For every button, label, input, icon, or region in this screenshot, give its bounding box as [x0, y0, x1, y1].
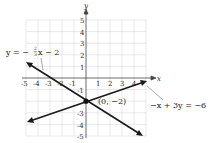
svg-text:-5: -5 [77, 133, 84, 141]
svg-text:-3: -3 [77, 110, 84, 118]
svg-text:−x + 3y = −6: −x + 3y = −6 [150, 101, 206, 110]
svg-text:-1: -1 [69, 80, 76, 88]
svg-text:-4: -4 [33, 80, 40, 88]
leader-line-1 [41, 58, 43, 70]
intersection-point [83, 99, 88, 104]
point-label: (0, −2) [98, 97, 126, 106]
svg-text:x − 2: x − 2 [38, 48, 59, 57]
svg-text:2: 2 [80, 52, 84, 60]
svg-text:2: 2 [108, 80, 112, 88]
svg-text:-5: -5 [21, 80, 28, 88]
x-axis-label: x [157, 75, 161, 83]
y-axis-label: y [83, 2, 89, 10]
svg-text:5: 5 [80, 17, 84, 25]
line-2-arrow-start-icon [27, 117, 34, 123]
svg-text:1: 1 [80, 64, 84, 72]
x-axis-arrow-icon [151, 76, 156, 80]
svg-text:3: 3 [120, 80, 124, 88]
svg-text:1: 1 [96, 80, 100, 88]
svg-text:3: 3 [34, 52, 37, 57]
svg-text:-1: -1 [77, 87, 84, 95]
line-2-equation-label: −x + 3y = −6 [147, 86, 206, 110]
axes [22, 9, 156, 138]
graph-canvas: x y -5 -4 -3 -2 -1 1 2 3 4 5 4 3 2 1 -1 … [0, 0, 210, 143]
svg-text:3: 3 [80, 40, 84, 48]
svg-text:y = −: y = − [5, 48, 29, 57]
svg-text:4: 4 [80, 29, 85, 37]
svg-text:-3: -3 [45, 80, 52, 88]
svg-text:-4: -4 [77, 122, 84, 130]
leader-line-2 [147, 86, 163, 100]
svg-text:2: 2 [34, 46, 37, 51]
y-tick-labels: 5 4 3 2 1 -1 -3 -4 -5 [77, 17, 85, 141]
